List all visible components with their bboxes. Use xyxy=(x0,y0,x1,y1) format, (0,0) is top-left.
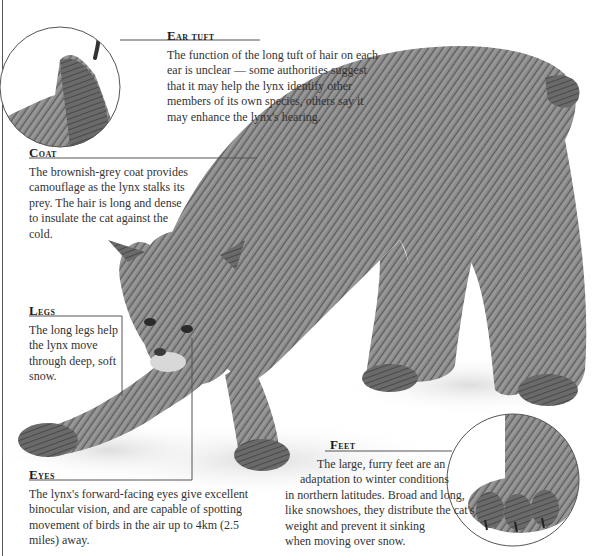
callout-legs: Legs The long legs help the lynx move th… xyxy=(29,303,125,385)
callout-ear-tuft-title: Ear tuft xyxy=(167,28,382,46)
title-rest: egs xyxy=(38,305,55,317)
callout-legs-title: Legs xyxy=(29,303,125,321)
ear-tuft-inset xyxy=(0,27,120,150)
feet-line: weight and prevent it sinking xyxy=(285,519,490,535)
callout-ear-tuft: Ear tuft The function of the long tuft o… xyxy=(167,28,382,125)
feet-line: like snowshoes, they distribute the cat'… xyxy=(285,503,490,519)
title-initial: C xyxy=(29,145,39,160)
callout-feet-body: The large, furry feet are an adaptation … xyxy=(285,457,490,550)
callout-feet: Feet The large, furry feet are an adapta… xyxy=(285,437,490,550)
title-rest: ar tuft xyxy=(176,30,214,42)
title-initial: E xyxy=(167,28,176,43)
title-rest: eet xyxy=(338,439,355,451)
callout-eyes-body: The lynx's forward-facing eyes give exce… xyxy=(29,487,259,549)
callout-eyes-title: Eyes xyxy=(29,467,259,485)
callout-coat: Coat The brownish-grey coat provides cam… xyxy=(29,145,189,242)
feet-line: The large, furry feet are an xyxy=(285,457,490,473)
title-rest: oat xyxy=(39,147,57,159)
callout-eyes: Eyes The lynx's forward-facing eyes give… xyxy=(29,467,259,549)
title-initial: L xyxy=(29,303,38,318)
feet-line: in northern latitudes. Broad and long, xyxy=(285,488,490,504)
feet-line: adaptation to winter conditions xyxy=(285,472,490,488)
callout-coat-body: The brownish-grey coat provides camoufla… xyxy=(29,165,189,243)
title-rest: yes xyxy=(38,469,55,481)
feet-line: when moving over snow. xyxy=(285,534,490,550)
callout-coat-title: Coat xyxy=(29,145,189,163)
callout-legs-body: The long legs help the lynx move through… xyxy=(29,323,125,385)
callout-feet-title: Feet xyxy=(285,437,490,455)
callout-ear-tuft-body: The function of the long tuft of hair on… xyxy=(167,48,382,126)
title-initial: E xyxy=(29,467,38,482)
